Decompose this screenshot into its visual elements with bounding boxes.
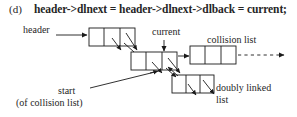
panel-letter: (d) [9,4,22,16]
label-collision-list: collision list [207,35,256,46]
label-start: start [58,86,75,97]
start-pointer-arrow [90,72,155,88]
label-doubly-linked-line2: list [216,95,228,106]
label-doubly-linked-line1: doubly linked [216,83,271,94]
label-start-subtitle: (of collision list) [16,98,83,109]
collision-list-node [190,46,236,64]
label-current: current [152,27,180,38]
equation-caption: header->dlnext = header->dlnext->dlback … [34,3,287,15]
label-header: header [23,25,50,36]
figure-panel-d: (d) header->dlnext = header->dlnext->dlb… [0,0,297,117]
